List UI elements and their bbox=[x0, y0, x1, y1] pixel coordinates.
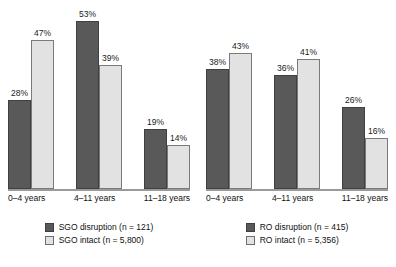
bar-dark bbox=[8, 100, 31, 189]
legend-label: RO disruption (n = 415) bbox=[260, 222, 349, 232]
bar-group: 38%43% bbox=[206, 53, 252, 189]
bar-column: 38% bbox=[206, 69, 229, 189]
bar-light bbox=[99, 65, 122, 189]
bar-light bbox=[167, 145, 190, 189]
legend-item: RO intact (n = 5,356) bbox=[246, 235, 349, 245]
legend-item: SGO disruption (n = 121) bbox=[45, 222, 154, 232]
x-axis-labels-sgo: 0–4 years4–11 years11–18 years bbox=[8, 193, 190, 204]
legend-rows: SGO disruption (n = 121)SGO intact (n = … bbox=[45, 222, 154, 245]
plot-area-sgo: 28%47%53%39%19%14% bbox=[8, 10, 190, 191]
bar-group: 53%39% bbox=[76, 21, 122, 189]
bar-dark bbox=[342, 107, 365, 189]
bar-column: 16% bbox=[365, 138, 388, 189]
x-axis-tick-label: 4–11 years bbox=[74, 193, 115, 204]
legend-rows: RO disruption (n = 415)RO intact (n = 5,… bbox=[246, 222, 349, 245]
bar-dark bbox=[206, 69, 229, 189]
chart-figure: 28%47%53%39%19%14% 0–4 years4–11 years11… bbox=[0, 0, 396, 267]
legend-swatch-light bbox=[246, 236, 255, 245]
bar-value-label: 16% bbox=[368, 126, 385, 136]
bar-value-label: 53% bbox=[79, 9, 96, 19]
x-axis-tick-label: 11–18 years bbox=[342, 193, 388, 204]
legend-swatch-dark bbox=[246, 223, 255, 232]
chart-panel-ro: 38%43%36%41%26%16% 0–4 years4–11 years11… bbox=[198, 0, 396, 267]
bar-dark bbox=[274, 75, 297, 189]
bar-column: 41% bbox=[297, 59, 320, 189]
bar-column: 47% bbox=[31, 40, 54, 189]
bar-column: 43% bbox=[229, 53, 252, 189]
plot-area-ro: 38%43%36%41%26%16% bbox=[206, 10, 388, 191]
bar-column: 36% bbox=[274, 75, 297, 189]
bar-groups-sgo: 28%47%53%39%19%14% bbox=[8, 10, 190, 189]
bar-value-label: 38% bbox=[209, 57, 226, 67]
bar-groups-ro: 38%43%36%41%26%16% bbox=[206, 10, 388, 189]
bar-column: 28% bbox=[8, 100, 31, 189]
x-axis-line bbox=[206, 189, 388, 191]
bar-group: 36%41% bbox=[274, 59, 320, 189]
legend-ro: RO disruption (n = 415)RO intact (n = 5,… bbox=[198, 222, 396, 245]
legend-item: SGO intact (n = 5,800) bbox=[45, 235, 154, 245]
legend-sgo: SGO disruption (n = 121)SGO intact (n = … bbox=[0, 222, 198, 245]
x-axis-line bbox=[8, 189, 190, 191]
bar-group: 19%14% bbox=[144, 129, 190, 189]
legend-label: SGO intact (n = 5,800) bbox=[59, 235, 144, 245]
legend-item: RO disruption (n = 415) bbox=[246, 222, 349, 232]
legend-label: SGO disruption (n = 121) bbox=[59, 222, 154, 232]
x-axis-tick-label: 4–11 years bbox=[272, 193, 313, 204]
bar-value-label: 14% bbox=[170, 133, 187, 143]
bar-value-label: 39% bbox=[102, 53, 119, 63]
bar-value-label: 36% bbox=[277, 63, 294, 73]
bar-light bbox=[229, 53, 252, 189]
bar-dark bbox=[144, 129, 167, 189]
x-axis-tick-label: 11–18 years bbox=[144, 193, 190, 204]
bar-value-label: 47% bbox=[34, 28, 51, 38]
bar-value-label: 19% bbox=[147, 117, 164, 127]
bar-value-label: 43% bbox=[232, 41, 249, 51]
legend-label: RO intact (n = 5,356) bbox=[260, 235, 339, 245]
bar-value-label: 26% bbox=[345, 95, 362, 105]
chart-panel-sgo: 28%47%53%39%19%14% 0–4 years4–11 years11… bbox=[0, 0, 198, 267]
legend-swatch-light bbox=[45, 236, 54, 245]
bar-column: 53% bbox=[76, 21, 99, 189]
legend-swatch-dark bbox=[45, 223, 54, 232]
bar-column: 19% bbox=[144, 129, 167, 189]
bar-value-label: 28% bbox=[11, 88, 28, 98]
bar-light bbox=[31, 40, 54, 189]
x-axis-labels-ro: 0–4 years4–11 years11–18 years bbox=[206, 193, 388, 204]
bar-dark bbox=[76, 21, 99, 189]
x-axis-tick-label: 0–4 years bbox=[206, 193, 243, 204]
bar-group: 28%47% bbox=[8, 40, 54, 189]
bar-column: 14% bbox=[167, 145, 190, 189]
bar-column: 26% bbox=[342, 107, 365, 189]
bar-light bbox=[365, 138, 388, 189]
bar-light bbox=[297, 59, 320, 189]
bar-value-label: 41% bbox=[300, 47, 317, 57]
bar-column: 39% bbox=[99, 65, 122, 189]
bar-group: 26%16% bbox=[342, 107, 388, 189]
x-axis-tick-label: 0–4 years bbox=[8, 193, 45, 204]
